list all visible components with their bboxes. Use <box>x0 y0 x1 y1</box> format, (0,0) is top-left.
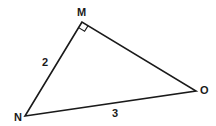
vertex-label-o: O <box>200 84 209 96</box>
triangle-diagram: M N O 2 3 <box>0 0 216 126</box>
triangle-mno <box>25 22 196 116</box>
side-length-no: 3 <box>112 107 118 119</box>
vertex-label-n: N <box>14 111 22 123</box>
vertex-label-m: M <box>77 6 86 18</box>
side-length-nm: 2 <box>42 56 48 68</box>
triangle-svg: M N O 2 3 <box>0 0 216 126</box>
